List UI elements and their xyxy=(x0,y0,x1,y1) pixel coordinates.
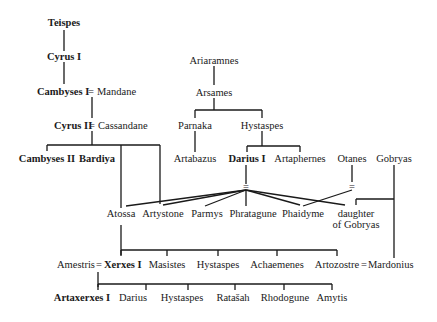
person-mardonius: Mardonius xyxy=(368,259,414,270)
person-phaidyme: Phaidyme xyxy=(282,208,324,219)
person-artaphernes: Artaphernes xyxy=(274,153,325,164)
person-achaemenes: Achaemenes xyxy=(250,259,304,270)
marriage-symbol-otanes: = xyxy=(349,181,355,192)
line-darius-artystone xyxy=(163,190,246,205)
person-labels: Teispes Cyrus I Cambyses I = Mandane Cyr… xyxy=(19,17,414,303)
person-hystaspes-grandson: Hystaspes xyxy=(161,292,204,303)
person-otanes: Otanes xyxy=(337,153,366,164)
person-masistes: Masistes xyxy=(149,259,186,270)
person-hystaspes-son: Hystaspes xyxy=(197,259,240,270)
person-artabazus: Artabazus xyxy=(174,153,217,164)
person-atossa: Atossa xyxy=(107,208,136,219)
person-xerxes-i: Xerxes I xyxy=(104,259,142,270)
person-arsames: Arsames xyxy=(196,87,233,98)
person-artystone: Artystone xyxy=(142,208,184,219)
person-bardiya: Bardiya xyxy=(79,153,116,164)
person-cambyses-i: Cambyses I xyxy=(37,86,89,97)
person-cassandane: Cassandane xyxy=(98,120,148,131)
person-teispes: Teispes xyxy=(48,17,80,28)
marriage-symbol-artozostre: = xyxy=(361,259,367,270)
person-ariaramnes: Ariaramnes xyxy=(190,55,239,66)
person-artaxerxes-i: Artaxerxes I xyxy=(54,292,110,303)
person-darius-son: Darius xyxy=(119,292,147,303)
marriage-symbol-cambyses: = xyxy=(88,86,94,97)
person-mandane: Mandane xyxy=(97,86,136,97)
person-darius-i: Darius I xyxy=(228,153,265,164)
family-tree-diagram: = = Teispes Cyrus I Cambyses I = Mandane… xyxy=(0,0,437,322)
person-daughter-of-gobryas-line2: of Gobryas xyxy=(333,219,380,230)
person-artozostre: Artozostre xyxy=(315,259,360,270)
marriage-symbols: = = xyxy=(243,181,355,192)
person-daughter-of-gobryas-line1: daughter xyxy=(338,208,375,219)
person-cyrus-i: Cyrus I xyxy=(47,51,81,62)
person-parmys: Parmys xyxy=(191,208,223,219)
line-otanes-phaidyme xyxy=(303,190,352,206)
line-darius-atossa xyxy=(126,190,246,206)
person-amestris: Amestris xyxy=(57,259,95,270)
person-cyrus-ii: Cyrus II xyxy=(54,120,92,131)
person-cambyses-ii: Cambyses II xyxy=(19,153,75,164)
person-hystaspes: Hystaspes xyxy=(241,120,284,131)
person-rhodogune: Rhodogune xyxy=(261,292,310,303)
person-amytis: Amytis xyxy=(317,292,348,303)
marriage-symbol-darius: = xyxy=(243,181,249,192)
person-gobryas: Gobryas xyxy=(376,153,412,164)
person-parnaka: Parnaka xyxy=(178,120,212,131)
person-ratasah: Ratašah xyxy=(216,292,250,303)
person-phratagune: Phratagune xyxy=(229,208,277,219)
marriage-symbol-xerxes: = xyxy=(96,259,102,270)
marriage-symbol-cyrus2: = xyxy=(89,120,95,131)
